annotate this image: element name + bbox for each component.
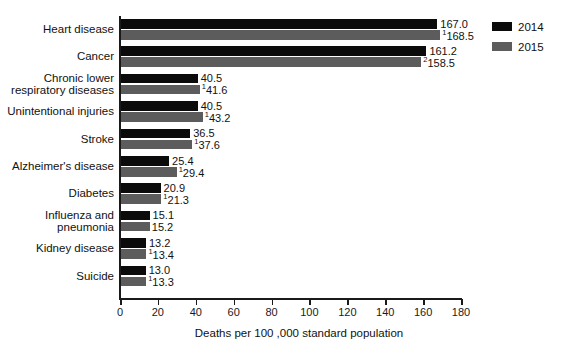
- bar-2014-5: [121, 156, 169, 166]
- bar-group: Heart disease167.01168.5: [0, 19, 562, 43]
- x-tick-60: [234, 299, 236, 305]
- bar-2015-1: [121, 57, 421, 67]
- legend-swatch-2014: [492, 22, 512, 31]
- category-label-6: Diabetes: [0, 187, 114, 200]
- x-tick-label-20: 20: [138, 306, 178, 319]
- bar-group: Influenza andpneumonia15.115.2: [0, 211, 562, 235]
- x-tick-40: [196, 299, 198, 305]
- bar-value-2015-3: 143.2: [205, 113, 231, 124]
- bar-2015-5: [121, 167, 177, 177]
- bar-2014-4: [121, 129, 190, 139]
- bar-value-2015-0: 1168.5: [442, 31, 474, 42]
- bar-value-2015-4: 137.6: [194, 140, 220, 151]
- bar-group: Cancer161.22158.5: [0, 46, 562, 70]
- bar-value-2015-1: 2158.5: [423, 58, 455, 69]
- legend-item-2014: 2014: [492, 18, 544, 35]
- x-axis-title: Deaths per 100 ,000 standard population: [0, 327, 562, 340]
- legend-label-2014: 2014: [518, 21, 544, 33]
- x-tick-0: [120, 299, 122, 305]
- x-tick-label-100: 100: [289, 306, 329, 319]
- category-label-1: Cancer: [0, 50, 114, 63]
- bar-group: Unintentional injuries40.5143.2: [0, 101, 562, 125]
- x-tick-120: [347, 299, 349, 305]
- bar-group: Kidney disease13.2113.4: [0, 238, 562, 262]
- category-label-4: Stroke: [0, 133, 114, 146]
- x-tick-label-120: 120: [327, 306, 367, 319]
- category-label-3: Unintentional injuries: [0, 105, 114, 118]
- bar-2014-9: [121, 266, 146, 276]
- legend: 2014 2015: [492, 18, 544, 58]
- bar-2014-8: [121, 238, 146, 248]
- category-label-2: Chronic lowerrespiratory diseases: [0, 72, 114, 97]
- x-tick-180: [461, 299, 463, 305]
- legend-swatch-2015: [492, 42, 512, 51]
- bar-value-2015-5: 129.4: [179, 168, 205, 179]
- bar-value-2015-9: 113.3: [148, 277, 174, 288]
- x-tick-label-60: 60: [214, 306, 254, 319]
- x-tick-label-40: 40: [176, 306, 216, 319]
- bar-2014-2: [121, 74, 198, 84]
- x-tick-140: [385, 299, 387, 305]
- category-label-9: Suicide: [0, 270, 114, 283]
- x-tick-100: [309, 299, 311, 305]
- bar-value-2015-2: 141.6: [202, 85, 228, 96]
- bar-value-2015-7: 15.2: [152, 222, 173, 233]
- bar-2015-2: [121, 85, 200, 95]
- x-tick-label-180: 180: [441, 306, 481, 319]
- bar-value-2015-6: 121.3: [163, 195, 189, 206]
- bar-group: Chronic lowerrespiratory diseases40.5141…: [0, 74, 562, 98]
- bar-value-2015-8: 113.4: [148, 250, 174, 261]
- category-label-5: Alzheimer's disease: [0, 160, 114, 173]
- bar-2015-9: [121, 277, 146, 287]
- x-tick-20: [158, 299, 160, 305]
- bar-group: Diabetes20.9121.3: [0, 183, 562, 207]
- bar-2015-3: [121, 112, 203, 122]
- x-axis-line: [119, 298, 462, 300]
- x-tick-80: [272, 299, 274, 305]
- bar-2015-7: [121, 222, 150, 232]
- bar-group: Stroke36.5137.6: [0, 129, 562, 153]
- bar-value-2014-7: 15.1: [153, 210, 174, 221]
- legend-label-2015: 2015: [518, 41, 544, 53]
- bar-2015-4: [121, 140, 192, 150]
- bar-value-2014-1: 161.2: [429, 46, 457, 57]
- bar-group: Alzheimer's disease25.4129.4: [0, 156, 562, 180]
- x-tick-label-140: 140: [365, 306, 405, 319]
- bar-2014-0: [121, 19, 437, 29]
- x-tick-label-0: 0: [100, 306, 140, 319]
- bar-2015-6: [121, 194, 161, 204]
- x-tick-label-160: 160: [403, 306, 443, 319]
- bar-2015-0: [121, 30, 440, 40]
- bar-2014-3: [121, 101, 198, 111]
- legend-item-2015: 2015: [492, 38, 544, 55]
- bar-2014-7: [121, 211, 150, 221]
- category-label-0: Heart disease: [0, 23, 114, 36]
- x-tick-160: [423, 299, 425, 305]
- bar-2015-8: [121, 249, 146, 259]
- bar-group: Suicide13.0113.3: [0, 266, 562, 290]
- bar-2014-1: [121, 46, 426, 56]
- bar-2014-6: [121, 183, 161, 193]
- x-tick-label-80: 80: [252, 306, 292, 319]
- bar-chart: Heart disease167.01168.5Cancer161.22158.…: [0, 0, 562, 352]
- category-label-7: Influenza andpneumonia: [0, 209, 114, 234]
- category-label-8: Kidney disease: [0, 242, 114, 255]
